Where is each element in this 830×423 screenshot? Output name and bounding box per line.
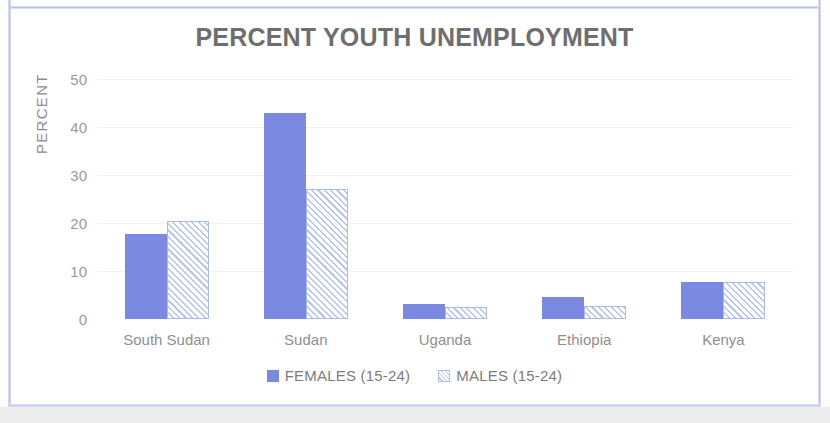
bar-group: Kenya bbox=[654, 79, 793, 319]
bar-male[interactable] bbox=[167, 221, 209, 319]
y-axis-tick-label: 30 bbox=[70, 167, 87, 184]
plot-area: 01020304050 South SudanSudanUgandaEthiop… bbox=[97, 79, 793, 319]
bar-group: Sudan bbox=[236, 79, 375, 319]
legend-label: FEMALES (15-24) bbox=[285, 367, 411, 384]
bar-female[interactable] bbox=[264, 113, 306, 319]
bar-female[interactable] bbox=[542, 297, 584, 319]
x-axis-category-label: Ethiopia bbox=[515, 331, 654, 348]
chart-container: PERCENT YOUTH UNEMPLOYMENT PERCENT 01020… bbox=[11, 9, 818, 404]
x-axis-category-label: Kenya bbox=[654, 331, 793, 348]
page-border-right bbox=[818, 0, 821, 423]
y-axis-tick-label: 10 bbox=[70, 263, 87, 280]
bar-groups: South SudanSudanUgandaEthiopiaKenya bbox=[97, 79, 793, 319]
x-axis-category-label: South Sudan bbox=[97, 331, 236, 348]
page-edge-strip bbox=[0, 407, 830, 423]
chart-title: PERCENT YOUTH UNEMPLOYMENT bbox=[11, 23, 818, 52]
legend-item[interactable]: MALES (15-24) bbox=[438, 367, 562, 384]
x-axis-category-label: Sudan bbox=[236, 331, 375, 348]
bar-group: Ethiopia bbox=[515, 79, 654, 319]
bar-male[interactable] bbox=[445, 307, 487, 319]
y-axis-tick-label: 50 bbox=[70, 71, 87, 88]
bar-group: Uganda bbox=[375, 79, 514, 319]
legend-label: MALES (15-24) bbox=[456, 367, 562, 384]
x-axis-category-label: Uganda bbox=[375, 331, 514, 348]
chart-legend: FEMALES (15-24)MALES (15-24) bbox=[11, 367, 818, 384]
y-axis-tick-label: 20 bbox=[70, 215, 87, 232]
bar-female[interactable] bbox=[681, 282, 723, 319]
bar-group: South Sudan bbox=[97, 79, 236, 319]
bar-male[interactable] bbox=[723, 282, 765, 319]
bar-female[interactable] bbox=[403, 304, 445, 319]
y-axis-title: PERCENT bbox=[33, 73, 50, 154]
bar-female[interactable] bbox=[125, 234, 167, 319]
legend-swatch-icon bbox=[267, 370, 279, 382]
bar-male[interactable] bbox=[306, 189, 348, 319]
y-axis-tick-label: 0 bbox=[79, 311, 87, 328]
legend-swatch-icon bbox=[438, 370, 450, 382]
bar-male[interactable] bbox=[584, 306, 626, 319]
scanned-chart-page: PERCENT YOUTH UNEMPLOYMENT PERCENT 01020… bbox=[0, 0, 830, 423]
legend-item[interactable]: FEMALES (15-24) bbox=[267, 367, 411, 384]
y-axis-tick-label: 40 bbox=[70, 119, 87, 136]
